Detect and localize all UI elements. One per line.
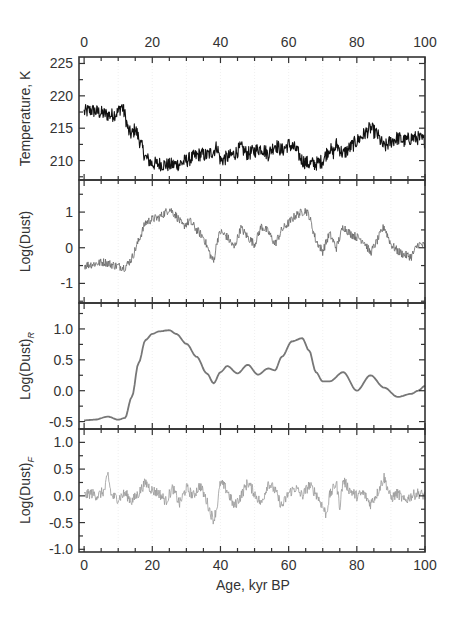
x-tick-label-bottom: 60 — [281, 557, 297, 573]
x-tick-label-bottom: 80 — [349, 557, 365, 573]
y-tick-label: 210 — [50, 153, 74, 169]
y-tick-label: -0.5 — [49, 515, 73, 531]
y-tick-label: 0.5 — [54, 352, 74, 368]
y-tick-label: 0 — [65, 240, 73, 256]
y-tick-label: 0.0 — [54, 383, 74, 399]
y-tick-label: 225 — [50, 55, 74, 71]
x-tick-label-top: 40 — [213, 34, 229, 50]
x-axis-title: Age, kyr BP — [216, 577, 290, 593]
y-axis-title-panel-2: Log(Dust) — [17, 211, 33, 272]
x-tick-label-top: 0 — [80, 34, 88, 50]
y-tick-label: 1.0 — [54, 434, 74, 450]
x-tick-label-bottom: 40 — [213, 557, 229, 573]
y-tick-label: 220 — [50, 88, 74, 104]
panel-frame-1 — [79, 57, 425, 180]
y-tick-label: -1.0 — [49, 541, 73, 557]
panel-frame-3 — [79, 303, 425, 429]
x-tick-label-bottom: 100 — [413, 557, 437, 573]
y-tick-label: 215 — [50, 120, 74, 136]
y-axis-title-panel-3: Log(Dust)R — [17, 332, 36, 400]
y-tick-label: 0.0 — [54, 488, 74, 504]
series-line-panel-2 — [84, 208, 425, 271]
y-axis-title-panel-1: Temperature, K — [17, 70, 33, 166]
y-axis-title-panel-4: Log(Dust)F — [17, 457, 36, 524]
x-tick-label-top: 100 — [413, 34, 437, 50]
y-tick-label: -1 — [61, 275, 74, 291]
stacked-paleoclimate-chart: 210215220225Temperature, K-101Log(Dust)-… — [0, 0, 460, 623]
y-tick-label: -0.5 — [49, 414, 73, 430]
data-series — [84, 105, 425, 525]
x-tick-label-bottom: 0 — [80, 557, 88, 573]
x-tick-label-top: 20 — [145, 34, 161, 50]
x-tick-label-top: 60 — [281, 34, 297, 50]
y-tick-label: 1 — [65, 204, 73, 220]
x-tick-label-top: 80 — [349, 34, 365, 50]
x-tick-label-bottom: 20 — [145, 557, 161, 573]
y-tick-label: 1.0 — [54, 321, 74, 337]
y-tick-label: 0.5 — [54, 461, 74, 477]
